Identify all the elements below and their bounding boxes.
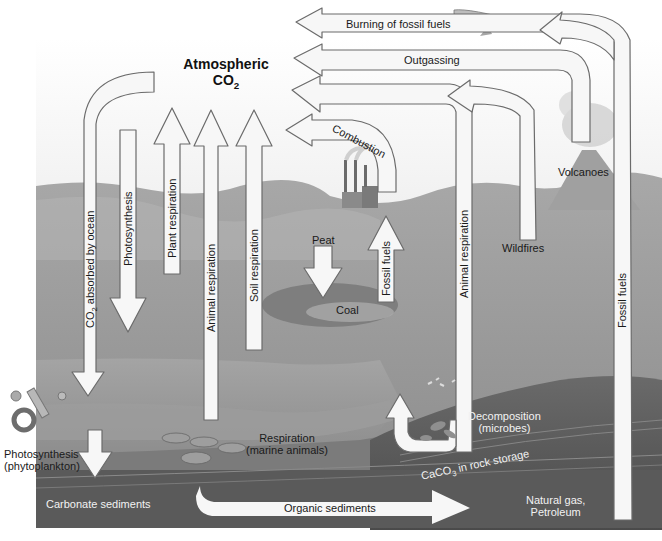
label-coal: Coal [336,304,359,316]
title-co: CO [213,72,234,88]
phyto-line-2: (phytoplankton) [4,460,80,472]
title-line-2: CO2 [213,72,239,88]
phyto-line-1: Photosynthesis [4,448,79,460]
label-natural-gas-petroleum: Natural gas, Petroleum [526,494,585,518]
label-wildfires: Wildfires [502,242,544,254]
label-animal-respiration-land: Animal respiration [205,244,217,332]
natgas-line-1: Natural gas, [526,494,585,506]
label-carbonate-sediments: Carbonate sediments [46,498,151,510]
label-fossil-fuels-right: Fossil fuels [616,273,628,328]
marine-line-1: Respiration [259,432,315,444]
label-peat: Peat [312,234,335,246]
diagram-canvas [0,0,662,541]
atmospheric-co2-title: Atmospheric CO2 [180,56,272,91]
label-marine-respiration: Respiration (marine animals) [246,432,328,456]
decomp-line-1: Decomposition [468,410,541,422]
co2-suffix: absorbed by ocean [84,211,96,308]
label-soil-respiration: Soil respiration [248,229,260,302]
carbon-cycle-diagram: Atmospheric CO2 Burning of fossil fuels … [0,0,662,541]
label-organic-sediments: Organic sediments [284,502,376,514]
label-fossil-fuels-center: Fossil fuels [380,241,392,296]
natgas-line-2: Petroleum [531,506,581,518]
label-decomposition: Decomposition (microbes) [468,410,541,434]
label-outgassing: Outgassing [404,54,460,66]
label-animal-respiration-right: Animal respiration [458,210,470,298]
label-co2-absorbed-by-ocean: CO2 absorbed by ocean [84,211,99,328]
co2-prefix: CO [84,312,96,329]
title-sub: 2 [234,80,239,91]
label-photosynthesis: Photosynthesis [122,191,134,266]
co2-sub: 2 [90,307,99,311]
label-phytoplankton: Photosynthesis (phytoplankton) [4,448,80,472]
marine-line-2: (marine animals) [246,444,328,456]
label-burning-fossil-fuels: Burning of fossil fuels [346,18,451,30]
decomp-line-2: (microbes) [478,422,530,434]
label-volcanoes: Volcanoes [558,166,609,178]
label-plant-respiration: Plant respiration [166,179,178,259]
title-line-1: Atmospheric [183,56,269,72]
